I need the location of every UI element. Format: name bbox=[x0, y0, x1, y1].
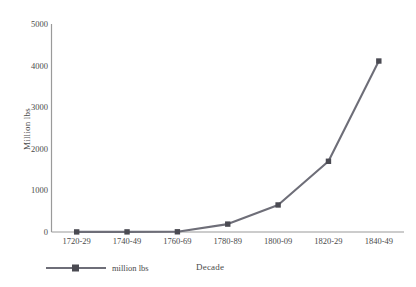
data-point-marker bbox=[124, 229, 129, 234]
series-line-million-lbs bbox=[77, 61, 379, 232]
data-point-marker bbox=[326, 159, 331, 164]
chart-legend: million lbs bbox=[46, 263, 149, 273]
data-point-marker bbox=[376, 58, 381, 63]
chart-container: Million lbs Decade 0 1000 2000 3000 4000… bbox=[0, 0, 416, 287]
plot-area bbox=[0, 0, 416, 287]
data-point-marker bbox=[225, 221, 230, 226]
data-point-marker bbox=[74, 229, 79, 234]
data-point-marker bbox=[275, 202, 280, 207]
legend-entry-label: million lbs bbox=[112, 263, 149, 273]
data-point-marker bbox=[175, 229, 180, 234]
legend-line-marker-icon bbox=[46, 263, 106, 273]
